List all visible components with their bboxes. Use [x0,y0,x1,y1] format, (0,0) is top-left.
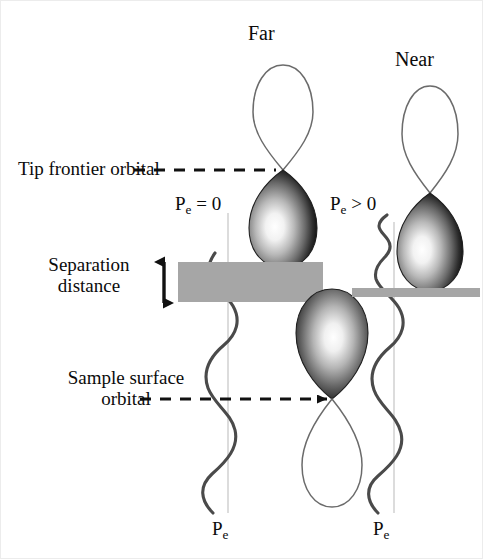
separation-barrier-far [178,262,323,302]
pe-left-symbol: P [175,193,186,214]
orbital-diagram-figure: Far Near Tip frontier orbital Pe = 0 Pe … [0,0,483,559]
pe-axis-far-subscript: e [223,527,229,542]
label-near: Near [395,48,434,70]
separation-distance-line-2: distance [58,275,120,296]
label-sample-surface-orbital: Sample surfaceorbital [22,367,230,410]
label-pe-axis-near: Pe [373,518,389,543]
label-far: Far [248,22,275,44]
pe-right-relation: > 0 [346,193,376,214]
pe-axis-near-subscript: e [384,527,390,542]
pe-right-symbol: P [330,193,341,214]
sample-surface-orbital-line-1: Sample surface [68,367,185,388]
label-pe-axis-far: Pe [212,518,228,543]
pe-axis-far-symbol: P [212,518,223,539]
pe-axis-near-symbol: P [373,518,384,539]
pe-left-relation: = 0 [191,193,221,214]
separation-barrier-near [352,288,480,297]
label-separation-distance: Separationdistance [22,254,156,297]
sample-surface-orbital-line-2: orbital [101,388,151,409]
separation-distance-line-1: Separation [48,254,129,275]
label-pe-equals-zero: Pe = 0 [175,193,221,218]
label-pe-greater-than-zero: Pe > 0 [330,193,376,218]
label-tip-frontier-orbital: Tip frontier orbital [18,158,160,179]
